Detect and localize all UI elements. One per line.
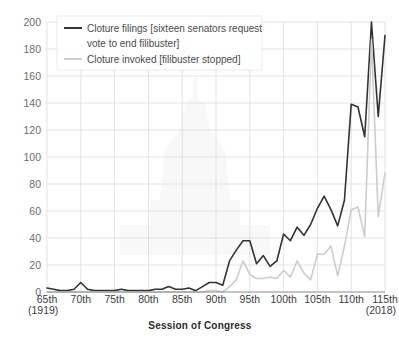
y-tick-label: 80 [29,178,41,190]
y-tick-label: 140 [23,97,41,109]
y-tick-label: 180 [23,43,41,55]
x-tick-label: 70th [71,293,92,305]
legend-label-invoked: Cloture invoked [filibuster stopped] [87,54,241,65]
y-tick-label: 100 [23,151,41,163]
cloture-line-chart: 020406080100120140160180200 65th70th75th… [0,0,399,340]
y-axis-ticks: 020406080100120140160180200 [23,16,41,298]
y-tick-label: 120 [23,124,41,136]
x-tick-label: 105th [304,293,330,305]
y-tick-label: 200 [23,16,41,28]
legend-label-filings-line1: Cloture filings [sixteen senators reques… [87,23,262,34]
x-tick-label: 95th [240,293,261,305]
x-tick-label: 75th [104,293,125,305]
x-tick-label: 85th [172,293,193,305]
x-axis-start-year: (1919) [28,304,58,316]
y-tick-label: 60 [29,205,41,217]
y-tick-label: 40 [29,232,41,244]
legend-label-filings-line2: vote to end filibuster] [87,38,179,49]
x-tick-label: 90th [206,293,227,305]
x-tick-label: 110th [338,293,364,305]
x-tick-label: 100th [270,293,296,305]
x-axis-end-year: (2018) [366,304,396,316]
y-tick-label: 160 [23,70,41,82]
x-axis-ticks: 65th70th75th80th85th90th95th100th105th11… [37,293,398,305]
chart-legend: Cloture filings [sixteen senators reques… [57,16,262,70]
x-axis-title: Session of Congress [148,320,252,331]
y-tick-label: 20 [29,259,41,271]
chart-canvas: 020406080100120140160180200 65th70th75th… [0,0,399,340]
x-tick-label: 80th [138,293,159,305]
